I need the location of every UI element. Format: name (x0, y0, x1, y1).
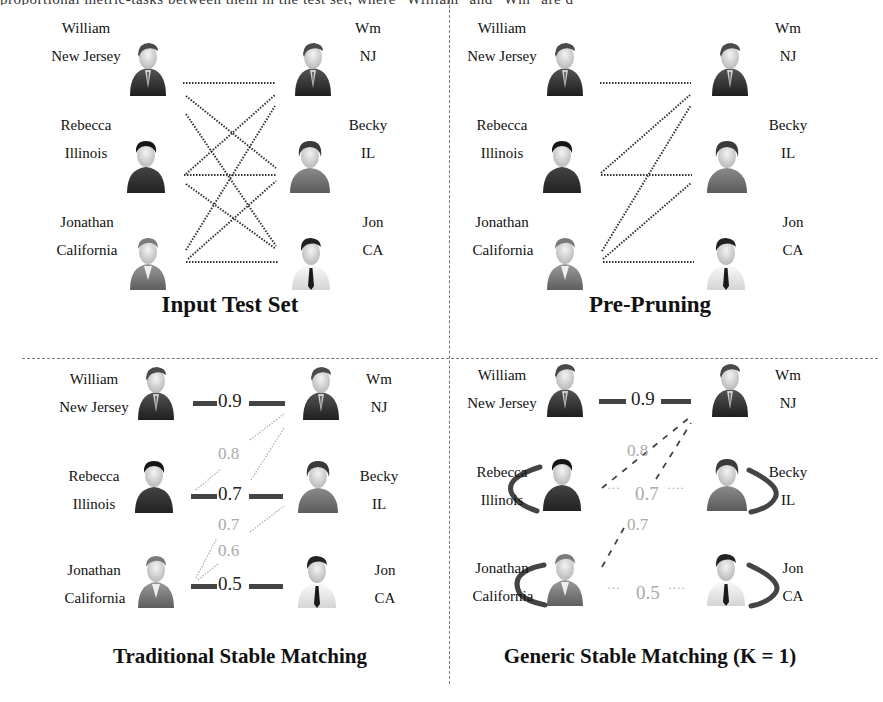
right-person-name: Wm (733, 361, 843, 389)
left-person-location: New Jersey (39, 393, 149, 421)
left-person-location: New Jersey (31, 42, 141, 70)
panel-pre-pruning-avatars (543, 43, 748, 290)
panel-title: Pre-Pruning (510, 292, 790, 318)
panel-title: Traditional Stable Matching (80, 644, 400, 669)
unmatched-score: 0.7 (635, 483, 659, 505)
left-person-name: Jonathan (447, 554, 557, 582)
left-person-name: Rebecca (39, 462, 149, 490)
left-person-name: William (39, 365, 149, 393)
right-person-location: IL (313, 139, 423, 167)
right-person-location: CA (738, 582, 848, 610)
left-person-name: Rebecca (447, 458, 557, 486)
unmatched-dots-right: ···· (668, 580, 685, 596)
left-person-location: Illinois (39, 490, 149, 518)
right-person-name: Jon (738, 554, 848, 582)
candidate-score: 0.8 (627, 441, 648, 461)
right-person-location: NJ (313, 42, 423, 70)
right-person-name: Becky (324, 462, 434, 490)
matched-score: 0.9 (218, 390, 242, 412)
right-person-name: Becky (733, 111, 843, 139)
left-person-name: William (447, 14, 557, 42)
panel-pre-pruning-edges (600, 83, 694, 262)
right-person-name: Becky (313, 111, 423, 139)
right-person-location: IL (324, 490, 434, 518)
left-person-location: New Jersey (447, 389, 557, 417)
right-person-location: NJ (733, 389, 843, 417)
left-person-location: Illinois (31, 139, 141, 167)
left-person-location: California (448, 582, 558, 610)
panel-input-edges (183, 83, 278, 262)
left-person-location: California (448, 236, 558, 264)
right-person-location: IL (733, 139, 843, 167)
left-person-name: William (447, 361, 557, 389)
right-person-name: Wm (324, 365, 434, 393)
left-person-location: California (40, 584, 150, 612)
left-person-name: Rebecca (447, 111, 557, 139)
left-person-name: Jonathan (39, 556, 149, 584)
left-person-name: William (31, 14, 141, 42)
right-person-location: IL (733, 486, 843, 514)
right-person-location: CA (738, 236, 848, 264)
right-person-name: Wm (733, 14, 843, 42)
right-person-location: CA (318, 236, 428, 264)
unmatched-score: 0.5 (636, 582, 660, 604)
left-person-name: Rebecca (31, 111, 141, 139)
left-person-location: New Jersey (447, 42, 557, 70)
matched-score: 0.5 (218, 573, 242, 595)
candidate-score: 0.7 (218, 515, 239, 535)
matched-score: 0.9 (631, 388, 655, 410)
matched-score: 0.7 (218, 483, 242, 505)
right-person-name: Wm (313, 14, 423, 42)
unmatched-dots-left: ··· (607, 580, 620, 596)
unmatched-dots-right: ···· (667, 480, 684, 496)
right-person-name: Jon (738, 208, 848, 236)
right-person-name: Becky (733, 458, 843, 486)
left-person-location: Illinois (447, 139, 557, 167)
panel-title: Generic Stable Matching (K = 1) (480, 644, 820, 669)
right-person-location: CA (330, 584, 440, 612)
right-person-name: Jon (330, 556, 440, 584)
candidate-score: 0.8 (218, 444, 239, 464)
panel-input-test-set-avatars (127, 43, 331, 290)
left-person-location: Illinois (447, 486, 557, 514)
right-person-location: NJ (733, 42, 843, 70)
unmatched-dots-left: ··· (607, 480, 620, 496)
left-person-location: California (32, 236, 142, 264)
panel-title: Input Test Set (90, 292, 370, 318)
right-person-name: Jon (318, 208, 428, 236)
candidate-score: 0.7 (627, 515, 648, 535)
left-person-name: Jonathan (447, 208, 557, 236)
left-person-name: Jonathan (32, 208, 142, 236)
candidate-score: 0.6 (218, 541, 239, 561)
right-person-location: NJ (324, 393, 434, 421)
